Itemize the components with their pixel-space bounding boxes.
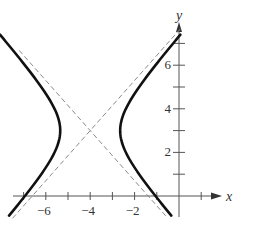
asymptote-falling [19, 50, 166, 215]
hyperbola-chart: −6−4−2 246 x y [0, 0, 254, 226]
x-tick-label: −2 [126, 203, 140, 218]
x-axis-arrow-icon [211, 193, 222, 200]
x-tick-label: −6 [37, 203, 51, 218]
hyperbola-right-branch [120, 35, 180, 216]
y-axis-label: y [174, 8, 183, 23]
y-tick-label: 2 [165, 144, 172, 159]
y-tick-label: 4 [165, 101, 172, 116]
y-tick-label: 6 [165, 57, 172, 72]
hyperbola-left-branch [0, 35, 60, 216]
asymptotes [13, 29, 181, 218]
hyperbola-branches [0, 35, 180, 216]
asymptote-rising [13, 29, 181, 218]
x-axis-label: x [225, 189, 233, 204]
y-ticks: 246 [165, 43, 186, 174]
x-tick-label: −4 [81, 203, 95, 218]
